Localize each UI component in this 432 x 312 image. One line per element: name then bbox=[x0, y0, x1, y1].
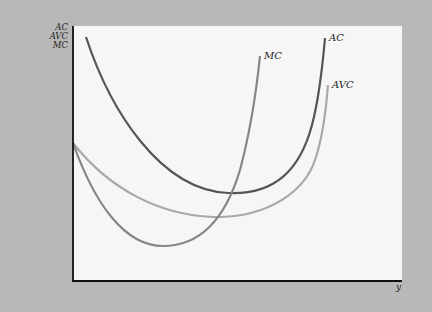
plot-panel bbox=[73, 26, 402, 281]
ac-curve-label: AC bbox=[329, 32, 344, 43]
y-axis-label: AC AVC MC bbox=[38, 23, 68, 50]
mc-curve-label: MC bbox=[264, 50, 282, 61]
avc-curve-label: AVC bbox=[332, 79, 354, 90]
x-axis-label: y bbox=[396, 282, 401, 292]
y-axis-label-mc: MC bbox=[38, 41, 68, 50]
